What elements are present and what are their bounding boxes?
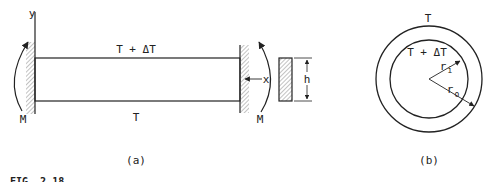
- inner-temperature-label: T + ΔT: [407, 46, 447, 59]
- bottom-temperature-label: T: [133, 111, 140, 124]
- left-moment-label: M: [20, 113, 27, 126]
- left-moment-arrow: [14, 42, 28, 111]
- figure-a-label: (a): [126, 154, 146, 167]
- top-temperature-label: T + ΔT: [116, 43, 156, 56]
- diagram-canvas: y T + ΔT T M x M h (a) T T + ΔT: [0, 0, 489, 182]
- height-label: h: [304, 73, 311, 86]
- inner-radius-subscript: i: [448, 66, 453, 75]
- outer-radius-subscript: o: [455, 90, 460, 99]
- figure-a: y T + ΔT T M x M h (a): [14, 7, 313, 167]
- x-axis-label: x: [263, 73, 270, 86]
- outer-radius-label: r: [447, 83, 454, 96]
- figure-caption: FIG. 2.18: [10, 176, 64, 182]
- figure-b: T T + ΔT r i r o (b): [376, 12, 482, 167]
- beam: [35, 58, 240, 101]
- right-moment-label: M: [257, 113, 264, 126]
- cross-section: [279, 58, 292, 101]
- figure-b-label: (b): [419, 154, 439, 167]
- y-axis-label: y: [29, 7, 36, 20]
- left-wall-hatch: [26, 42, 35, 114]
- inner-radius-label: r: [440, 60, 447, 73]
- outer-temperature-label: T: [425, 12, 432, 25]
